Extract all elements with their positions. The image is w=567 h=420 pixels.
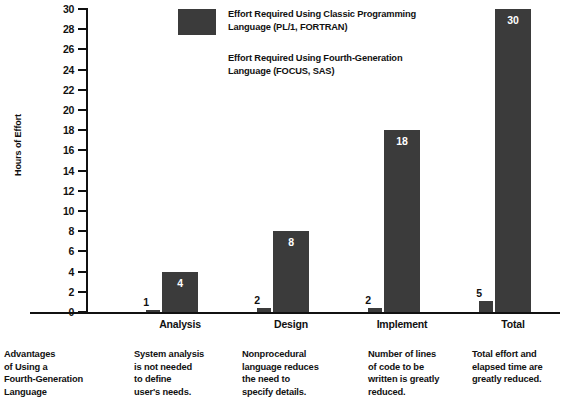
bar-value-classic-design: 8 <box>271 236 311 248</box>
bar-value-fourth-generation-total: 5 <box>464 287 494 299</box>
y-tick-30 <box>78 8 87 10</box>
caption-heading: Advantages of Using a Fourth-Generation … <box>4 348 124 398</box>
y-tick-26 <box>78 48 87 50</box>
x-axis-line <box>30 312 560 314</box>
bar-value-fourth-generation-analysis: 1 <box>131 296 161 308</box>
y-tick-label-30: 30 <box>44 4 74 14</box>
caption-analysis: System analysis is not needed to define … <box>134 348 234 398</box>
y-tick-24 <box>78 69 87 71</box>
category-label-design: Design <box>236 318 346 330</box>
caption-implement: Number of lines of code to be written is… <box>368 348 478 398</box>
bar-value-classic-implement: 18 <box>382 135 422 147</box>
category-label-total: Total <box>458 318 567 330</box>
y-tick-20 <box>78 109 87 111</box>
y-tick-label-20: 20 <box>44 105 74 115</box>
chart-page: Hours of Effort 302826242220181614121086… <box>0 0 567 420</box>
legend-label-fourth-generation: Effort Required Using Fourth-Generation … <box>228 52 402 77</box>
y-tick-label-24: 24 <box>44 65 74 75</box>
y-tick-label-10: 10 <box>44 206 74 216</box>
category-label-implement: Implement <box>347 318 457 330</box>
bar-fourth-generation-design <box>257 308 271 312</box>
y-tick-label-4: 4 <box>44 267 74 277</box>
y-tick-label-2: 2 <box>44 287 74 297</box>
bar-classic-total <box>495 9 531 312</box>
caption-design: Nonprocedural language reduces the need … <box>242 348 352 398</box>
y-tick-0 <box>78 311 87 313</box>
y-tick-4 <box>78 271 87 273</box>
y-tick-22 <box>78 89 87 91</box>
legend-swatch-fourth-generation <box>178 52 216 78</box>
y-tick-12 <box>78 190 87 192</box>
y-tick-label-6: 6 <box>44 246 74 256</box>
bar-value-fourth-generation-implement: 2 <box>353 294 383 306</box>
bar-fourth-generation-analysis <box>146 310 160 312</box>
y-tick-label-26: 26 <box>44 44 74 54</box>
y-axis-line <box>86 8 88 314</box>
legend-label-classic: Effort Required Using Classic Programmin… <box>228 8 416 33</box>
y-tick-label-22: 22 <box>44 85 74 95</box>
bar-value-classic-total: 30 <box>493 14 533 26</box>
caption-total: Total effort and elapsed time are greatl… <box>472 348 567 386</box>
y-tick-label-28: 28 <box>44 24 74 34</box>
y-tick-label-12: 12 <box>44 186 74 196</box>
y-tick-label-0: 0 <box>44 307 74 317</box>
category-label-analysis: Analysis <box>125 318 235 330</box>
y-tick-28 <box>78 28 87 30</box>
bar-value-fourth-generation-design: 2 <box>242 294 272 306</box>
y-tick-6 <box>78 250 87 252</box>
bar-fourth-generation-total <box>479 301 493 312</box>
legend-swatch-classic <box>178 9 216 35</box>
y-tick-14 <box>78 170 87 172</box>
bar-classic-implement <box>384 130 420 312</box>
y-tick-label-18: 18 <box>44 125 74 135</box>
y-tick-8 <box>78 230 87 232</box>
y-tick-10 <box>78 210 87 212</box>
y-tick-2 <box>78 291 87 293</box>
y-axis-title: Hours of Effort <box>13 100 23 190</box>
y-tick-18 <box>78 129 87 131</box>
bar-value-classic-analysis: 4 <box>160 277 200 289</box>
y-tick-label-14: 14 <box>44 166 74 176</box>
y-tick-16 <box>78 149 87 151</box>
bar-fourth-generation-implement <box>368 308 382 312</box>
y-tick-label-16: 16 <box>44 145 74 155</box>
y-tick-label-8: 8 <box>44 226 74 236</box>
